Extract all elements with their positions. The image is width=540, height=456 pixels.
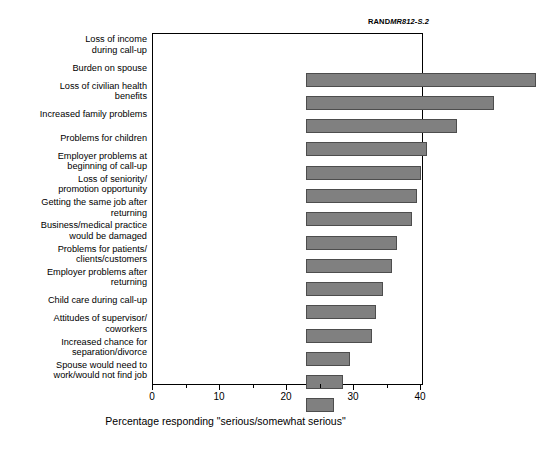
bar — [306, 73, 536, 87]
category-label: Loss of civilian healthbenefits — [0, 81, 147, 102]
rand-logo-text: RAND — [368, 17, 390, 26]
category-axis-labels: Loss of incomeduring call-upBurden on sp… — [0, 33, 147, 383]
category-label: Problems for patients/clients/customers — [0, 244, 147, 265]
category-label: Getting the same job afterreturning — [0, 197, 147, 218]
category-label: Employer problems afterreturning — [0, 267, 147, 288]
x-tick-minor — [320, 384, 321, 388]
x-tick-major — [286, 384, 287, 390]
bar — [306, 236, 397, 250]
x-tick-minor — [253, 384, 254, 388]
bar — [306, 119, 457, 133]
x-tick-major — [219, 384, 220, 390]
bar — [306, 375, 343, 389]
x-tick-major — [353, 384, 354, 390]
x-tick-minor — [186, 384, 187, 388]
x-tick-label: 20 — [266, 391, 306, 402]
bar — [306, 166, 421, 180]
bar — [306, 259, 392, 273]
bar — [306, 96, 494, 110]
category-label: Spouse would need towork/would not find … — [0, 360, 147, 381]
x-tick-label: 40 — [400, 391, 440, 402]
x-tick-label: 10 — [199, 391, 239, 402]
rand-report-number: MR812-S.2 — [390, 17, 429, 26]
category-label: Business/medical practicewould be damage… — [0, 220, 147, 241]
x-tick-major — [420, 384, 421, 390]
category-label: Increased family problems — [0, 109, 147, 119]
figure-source-id: RANDMR812-S.2 — [368, 17, 429, 26]
bar — [306, 142, 427, 156]
category-label: Loss of incomeduring call-up — [0, 34, 147, 55]
category-label: Loss of seniority/promotion opportunity — [0, 174, 147, 195]
x-tick-label: 30 — [333, 391, 373, 402]
bar — [306, 212, 412, 226]
bar — [306, 189, 417, 203]
category-label: Attitudes of supervisor/coworkers — [0, 313, 147, 334]
plot-area — [152, 33, 423, 385]
bar — [306, 398, 334, 412]
x-tick-minor — [387, 384, 388, 388]
category-label: Burden on spouse — [0, 63, 147, 73]
category-label: Problems for children — [0, 133, 147, 143]
category-label: Child care during call-up — [0, 295, 147, 305]
bar — [306, 329, 372, 343]
category-label: Increased chance forseparation/divorce — [0, 337, 147, 358]
x-axis-title: Percentage responding "serious/somewhat … — [0, 415, 451, 427]
x-tick-label: 0 — [132, 391, 172, 402]
bar-series — [306, 68, 540, 417]
bar — [306, 282, 383, 296]
category-label: Employer problems atbeginning of call-up — [0, 151, 147, 172]
x-tick-major — [152, 384, 153, 390]
bar — [306, 352, 350, 366]
bar — [306, 305, 376, 319]
